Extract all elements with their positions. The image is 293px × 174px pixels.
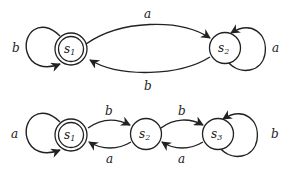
state-s1: s1 [55,33,87,65]
state-label-sub: 1 [70,134,75,143]
edge-s3-s2-a [162,142,203,148]
edge-label: b [12,41,20,55]
edge-label: a [178,152,185,166]
edge-s2-s1-b [90,57,210,72]
state-s3: s3 [203,119,234,150]
edge-s2-s1-a [89,142,131,148]
state-label-sub: 1 [70,48,75,57]
state-label-sub: 2 [144,133,150,142]
edge-label: b [178,104,186,118]
automata-diagram: b a b a s1 s2 a b a b [0,0,293,174]
edge-label: b [271,127,279,141]
state-s2: s2 [131,119,162,150]
edge-label: b [144,79,152,93]
edge-s2-s3-b [161,120,203,128]
edge-s1-s2-b [88,120,130,128]
edge-label: b [105,104,113,118]
edge-label: a [11,127,18,141]
state-label-sub: 2 [223,47,229,56]
state-s1: s1 [55,119,87,151]
edge-s1-s2-a [86,24,210,44]
automaton-2: a b a b a b s1 s2 s3 [11,104,279,166]
automaton-1: b a b a s1 s2 [12,7,279,93]
state-s2: s2 [210,33,241,64]
edge-label: a [144,7,151,21]
state-label-sub: 3 [217,133,222,142]
edge-label: a [272,41,279,55]
edge-label: a [106,152,113,166]
